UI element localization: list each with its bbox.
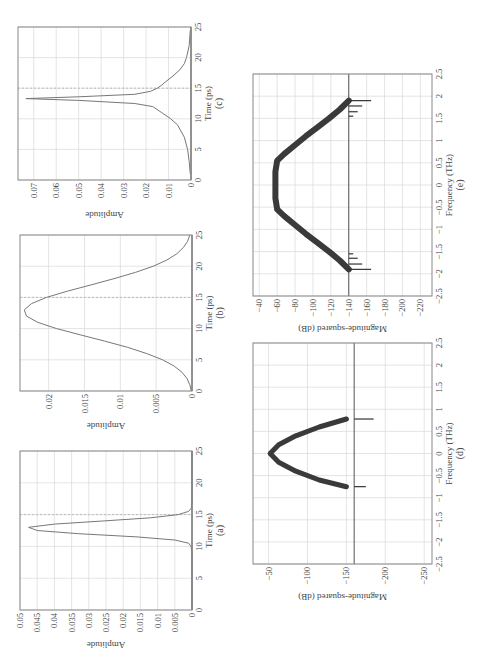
svg-text:2: 2 [434, 363, 444, 367]
svg-text:0.03: 0.03 [84, 613, 94, 628]
y-tick-labels: −220−200−180−160−140−120−100−80−60−40 [254, 299, 425, 317]
svg-text:−2.5: −2.5 [434, 288, 444, 303]
svg-text:5: 5 [194, 358, 204, 362]
panel-label: (d) [454, 448, 466, 460]
svg-text:0.07: 0.07 [29, 183, 39, 198]
svg-text:0.5: 0.5 [434, 157, 444, 168]
svg-text:1: 1 [434, 407, 444, 411]
svg-text:15: 15 [194, 293, 204, 302]
svg-text:0.01: 0.01 [164, 183, 174, 198]
svg-text:5: 5 [194, 576, 204, 580]
svg-text:−60: −60 [272, 299, 282, 312]
svg-text:1: 1 [434, 138, 444, 142]
svg-text:−100: −100 [302, 567, 312, 585]
svg-text:10: 10 [194, 542, 204, 551]
chart-panel-a: 051015202500.0050.010.0150.020.0250.030.… [15, 447, 226, 650]
y-axis-label: Amplitude [87, 640, 126, 650]
svg-text:0: 0 [434, 183, 444, 187]
x-tick-labels: −2.5−2−1.5−1−0.500.511.522.5 [434, 338, 444, 572]
y-tick-labels: 00.010.020.030.040.050.060.07 [29, 182, 196, 198]
svg-text:0: 0 [193, 178, 203, 182]
y-tick-labels: −250−200−150−100−50 [264, 567, 430, 585]
svg-text:0.01: 0.01 [115, 394, 125, 409]
svg-text:−40: −40 [254, 299, 264, 312]
svg-text:2: 2 [434, 94, 444, 98]
svg-text:−0.5: −0.5 [434, 199, 444, 214]
y-axis-label: Amplitude [85, 210, 124, 220]
svg-text:−250: −250 [419, 567, 429, 585]
rotated-figure: 051015202500.0050.010.0150.020.0250.030.… [0, 0, 489, 650]
svg-text:−2: −2 [434, 269, 444, 278]
chart-panel-c: 051015202500.010.020.030.040.050.060.07T… [18, 23, 225, 220]
svg-text:1.5: 1.5 [434, 113, 444, 124]
x-axis-label: Time (ps) [203, 86, 213, 121]
svg-text:25: 25 [194, 447, 204, 456]
svg-text:0.04: 0.04 [96, 182, 106, 198]
svg-text:20: 20 [194, 262, 204, 271]
panel-label: (b) [214, 307, 226, 319]
svg-text:0: 0 [186, 183, 196, 187]
x-axis-label: Time (ps) [204, 296, 214, 331]
svg-text:0.03: 0.03 [119, 183, 129, 198]
x-tick-labels: −2.5−2−1.5−1−0.500.511.522.5 [434, 69, 444, 304]
panel-label: (c) [213, 98, 225, 109]
y-axis-label: Magnitude-squared (dB) [298, 592, 387, 602]
svg-text:−100: −100 [308, 299, 318, 317]
x-axis-label: Frequency (THz) [444, 422, 454, 484]
svg-text:−1: −1 [434, 493, 444, 502]
figure-canvas: 051015202500.0050.010.0150.020.0250.030.… [0, 0, 489, 650]
figure-svg: 051015202500.0050.010.0150.020.0250.030.… [0, 0, 489, 650]
svg-text:−140: −140 [344, 299, 354, 317]
svg-text:0: 0 [194, 389, 204, 393]
svg-text:0.005: 0.005 [170, 613, 180, 632]
svg-text:−120: −120 [326, 299, 336, 317]
svg-text:0.005: 0.005 [151, 394, 161, 413]
svg-text:20: 20 [193, 53, 203, 62]
svg-text:−2: −2 [434, 537, 444, 546]
chart-panel-b: 051015202500.0050.010.0150.02Time (ps)Am… [20, 231, 226, 431]
svg-text:0: 0 [187, 613, 197, 617]
svg-text:15: 15 [194, 510, 204, 518]
svg-text:15: 15 [193, 84, 203, 93]
svg-text:−200: −200 [397, 299, 407, 317]
svg-text:0.02: 0.02 [118, 613, 128, 628]
svg-text:−150: −150 [341, 567, 351, 585]
svg-text:0.05: 0.05 [15, 613, 25, 628]
y-axis-label: Amplitude [87, 421, 126, 431]
svg-text:−180: −180 [380, 299, 390, 317]
svg-text:5: 5 [193, 147, 203, 151]
svg-text:0.015: 0.015 [135, 613, 145, 632]
svg-text:−1: −1 [434, 225, 444, 234]
svg-text:−2.5: −2.5 [434, 556, 444, 571]
x-axis-label: Frequency (THz) [444, 154, 454, 216]
svg-text:−0.5: −0.5 [434, 468, 444, 483]
svg-text:20: 20 [194, 479, 204, 488]
y-tick-labels: 00.0050.010.0150.02 [44, 394, 197, 413]
svg-text:−160: −160 [362, 299, 372, 317]
svg-text:0: 0 [187, 394, 197, 398]
chart-panel-d: −2.5−2−1.5−1−0.500.511.522.5−250−200−150… [253, 338, 466, 602]
panel-label: (a) [214, 525, 226, 536]
svg-text:0.02: 0.02 [141, 183, 151, 198]
svg-text:0.06: 0.06 [51, 183, 61, 198]
x-tick-labels: 0510152025 [194, 447, 204, 612]
svg-text:2.5: 2.5 [434, 69, 444, 80]
svg-text:0: 0 [434, 451, 444, 455]
svg-text:0.05: 0.05 [74, 183, 84, 198]
x-axis-label: Time (ps) [204, 513, 214, 548]
svg-text:10: 10 [194, 324, 204, 333]
panel-label: (e) [454, 179, 466, 190]
svg-text:−50: −50 [264, 567, 274, 580]
svg-text:−1.5: −1.5 [434, 244, 444, 259]
svg-text:−220: −220 [415, 299, 425, 317]
svg-text:25: 25 [194, 231, 204, 240]
svg-text:0.04: 0.04 [49, 612, 59, 628]
chart-panel-e: −2.5−2−1.5−1−0.500.511.522.5−220−200−180… [253, 69, 466, 334]
svg-text:10: 10 [193, 115, 203, 124]
svg-text:0.025: 0.025 [101, 613, 111, 632]
svg-text:0.02: 0.02 [44, 394, 54, 409]
svg-text:0.035: 0.035 [67, 613, 77, 632]
svg-text:−80: −80 [290, 299, 300, 312]
svg-text:1.5: 1.5 [434, 382, 444, 393]
y-tick-labels: 00.0050.010.0150.020.0250.030.0350.040.0… [15, 612, 197, 632]
